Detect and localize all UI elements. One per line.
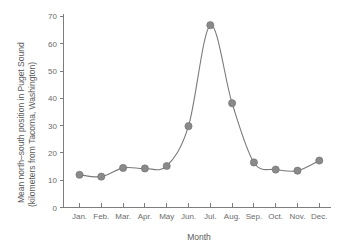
y-axis-title-line-2: (kilometers from Tacoma, Washington) — [27, 62, 37, 207]
x-axis-ticks: Jan. Feb. Mar. Apr. May Jun. Jul. Aug. S… — [72, 203, 328, 222]
y-axis-ticks: 0 10 20 30 40 50 60 70 — [48, 12, 63, 212]
data-point-jul — [207, 22, 214, 29]
y-axis-title-line-1: Mean north–south position in Puget Sound — [16, 42, 26, 203]
data-point-sep — [250, 159, 257, 166]
x-axis-title: Month — [187, 232, 211, 242]
x-tick-label-feb: Feb. — [93, 212, 109, 221]
data-point-jun — [185, 123, 192, 130]
data-series-line — [80, 25, 320, 177]
x-tick-label-oct: Oct. — [268, 212, 283, 221]
y-tick-label-20: 20 — [48, 149, 57, 158]
y-tick-label-70: 70 — [48, 12, 57, 21]
y-tick-label-40: 40 — [48, 94, 57, 103]
x-tick-label-jun: Jun. — [181, 212, 196, 221]
data-series-points — [76, 22, 323, 181]
x-tick-label-dec: Dec. — [311, 212, 327, 221]
line-chart: Mean north–south position in Puget Sound… — [0, 0, 343, 249]
x-tick-label-may: May — [159, 212, 174, 221]
y-tick-label-50: 50 — [48, 67, 57, 76]
x-tick-label-mar: Mar. — [115, 212, 131, 221]
x-tick-label-apr: Apr. — [138, 212, 152, 221]
data-point-feb — [98, 173, 105, 180]
y-tick-label-0: 0 — [53, 204, 58, 213]
x-tick-label-sep: Sep. — [246, 212, 262, 221]
x-tick-label-aug: Aug. — [224, 212, 240, 221]
chart-canvas: Mean north–south position in Puget Sound… — [0, 0, 343, 249]
data-point-oct — [272, 166, 279, 173]
y-tick-label-60: 60 — [48, 40, 57, 49]
x-tick-label-nov: Nov. — [290, 212, 306, 221]
data-point-apr — [141, 165, 148, 172]
y-tick-label-10: 10 — [48, 176, 57, 185]
data-point-jan — [76, 171, 83, 178]
y-axis-title: Mean north–south position in Puget Sound… — [16, 42, 37, 207]
data-point-dec — [316, 157, 323, 164]
x-tick-label-jul: Jul. — [204, 212, 216, 221]
data-point-aug — [229, 100, 236, 107]
x-tick-label-jan: Jan. — [72, 212, 87, 221]
data-point-mar — [120, 164, 127, 171]
y-tick-label-30: 30 — [48, 122, 57, 131]
data-point-may — [163, 162, 170, 169]
data-point-nov — [294, 167, 301, 174]
